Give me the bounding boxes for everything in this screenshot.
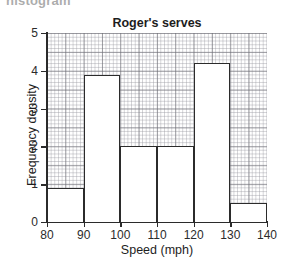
x-axis-tick xyxy=(157,222,158,227)
y-axis-tick xyxy=(41,33,46,34)
x-axis-title: Speed (mph) xyxy=(47,243,267,257)
x-axis-tick xyxy=(120,222,121,227)
x-axis-tick-label: 110 xyxy=(147,228,166,242)
x-axis-tick-label: 80 xyxy=(40,228,53,242)
x-axis-tick xyxy=(267,222,268,227)
x-axis-tick-label: 100 xyxy=(110,228,130,242)
plot-area xyxy=(47,33,267,222)
histogram-bar xyxy=(194,63,231,222)
y-axis-title: Frequency density xyxy=(25,45,39,225)
y-axis-tick xyxy=(41,71,46,72)
histogram-figure: Roger's serves 8090100110120130140012345… xyxy=(0,0,281,265)
y-axis-tick xyxy=(41,146,46,147)
y-axis-tick xyxy=(41,109,46,110)
histogram-bar xyxy=(120,146,157,222)
x-axis-tick xyxy=(230,222,231,227)
histogram-bar xyxy=(157,146,194,222)
y-axis-tick xyxy=(41,184,46,185)
x-axis-tick xyxy=(47,222,48,227)
chart-title: Roger's serves xyxy=(47,16,267,30)
x-axis-tick-label: 90 xyxy=(77,228,90,242)
histogram-bar xyxy=(84,75,121,222)
histogram-bar xyxy=(47,188,84,222)
x-axis-tick xyxy=(194,222,195,227)
x-axis-tick-label: 130 xyxy=(220,228,240,242)
histogram-bar xyxy=(230,203,267,222)
x-axis-tick xyxy=(84,222,85,227)
y-axis-tick xyxy=(41,222,46,223)
x-axis-tick-label: 120 xyxy=(184,228,204,242)
y-axis-tick-label: 5 xyxy=(24,26,38,40)
x-axis-tick-label: 140 xyxy=(257,228,277,242)
